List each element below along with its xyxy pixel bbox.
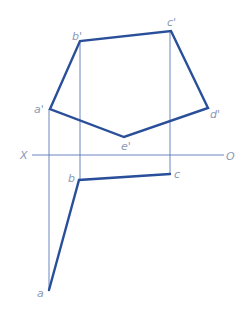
axis-label-o: O (226, 150, 235, 163)
projection-diagram: X O a' b' c' d' e' a b c (0, 0, 247, 328)
label-a-prime: a' (34, 103, 44, 116)
top-view-outline (49, 174, 170, 290)
label-c-prime: c' (167, 16, 176, 29)
axis-label-x: X (19, 149, 28, 162)
label-e-prime: e' (121, 140, 131, 153)
label-c: c (174, 168, 180, 181)
front-view-outline (50, 31, 208, 137)
label-b-prime: b' (72, 30, 82, 43)
label-a: a (37, 287, 44, 300)
label-b: b (68, 172, 75, 185)
label-d-prime: d' (210, 108, 220, 121)
